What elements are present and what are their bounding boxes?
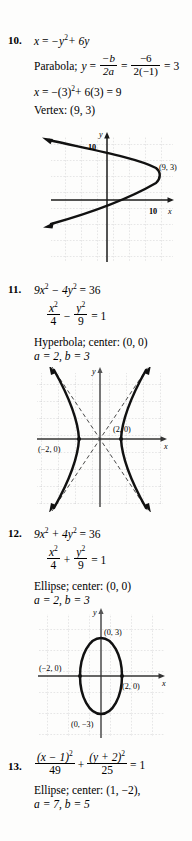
- fraction-x2-over-4: x2 4: [47, 546, 60, 572]
- equals-one: = 1: [130, 759, 145, 771]
- y-axis-label: y: [92, 608, 97, 617]
- eq-term1: 9x: [34, 284, 45, 296]
- x-axis-label: x: [163, 442, 168, 451]
- y-axis-label: y: [91, 367, 96, 376]
- fraction-denominator: 4: [47, 558, 60, 571]
- x-axis-arrow: [161, 436, 168, 442]
- problem-12-description: Ellipse; center: (0, 0): [34, 579, 192, 593]
- left-vertex-label: (−2, 0): [39, 664, 62, 673]
- equals-one: = 1: [91, 310, 106, 322]
- eq-rhs: = 36: [80, 528, 101, 540]
- parabola-graph: y 10 10 x (9, 3): [33, 128, 183, 268]
- fraction-numerator: x2: [47, 546, 60, 558]
- fraction-y-plus-2-squared-over-25: (y + 2)2 25: [87, 751, 127, 777]
- fraction-numerator: −b: [100, 53, 117, 65]
- right-vertex-label: (2, 0): [122, 682, 140, 691]
- problem-10-vertex: Vertex: (9, 3): [34, 103, 192, 117]
- formula-result: 3: [174, 60, 180, 72]
- fraction-denominator: 9: [74, 314, 87, 327]
- hyperbola-svg: y x (−2, 0) (2, 0): [24, 367, 180, 512]
- eq-term1: −y: [51, 35, 64, 47]
- fraction-y2-over-9: y2 9: [74, 546, 87, 572]
- problem-12-standard-form: x2 4 + y2 9 = 1: [46, 547, 192, 573]
- problem-10-formula: Parabola; y = −b 2a = −6 2(−1) = 3: [34, 54, 192, 79]
- vertex-label-left: (−2, 0): [38, 445, 61, 454]
- operator: +: [78, 759, 85, 771]
- equals-one: = 1: [91, 554, 106, 566]
- problem-11-equation: 9x2 − 4y2 = 36: [34, 283, 192, 297]
- problem-13-standard-form: (x − 1)2 49 + (y + 2)2 25 = 1: [34, 752, 192, 778]
- parabola-svg: y 10 10 x (9, 3): [33, 128, 183, 268]
- top-vertex-label: (0, 3): [104, 628, 122, 637]
- formula-var: y: [81, 60, 86, 72]
- vertex-dot-right: [120, 674, 124, 678]
- eq-term1: 9x: [34, 528, 45, 540]
- problem-13-description: Ellipse; center: (1, −2),: [34, 783, 192, 797]
- operator: −: [64, 310, 71, 322]
- operator: +: [64, 554, 71, 566]
- fraction-x-minus-1-squared-over-49: (x − 1)2 49: [35, 751, 75, 777]
- problem-11-number: 11.: [8, 283, 21, 295]
- fraction-denominator: 49: [35, 763, 75, 776]
- y-tick-10: 10: [88, 143, 96, 152]
- eq-term2: − 4y: [51, 284, 73, 296]
- fraction-numerator: (y + 2)2: [87, 751, 127, 763]
- problem-11-description: Hyperbola; center: (0, 0): [34, 335, 192, 349]
- x-tick-10: 10: [149, 207, 157, 216]
- problem-10-number: 10.: [8, 34, 22, 46]
- fraction-numerator: −6: [131, 53, 160, 65]
- problem-12-params: a = 2, b = 3: [34, 593, 192, 607]
- problem-10-evaluation: x = −(3)2+ 6(3) = 9: [34, 85, 192, 99]
- vertex-dot-left: [78, 674, 82, 678]
- problem-12-equation: 9x2 + 4y2 = 36: [34, 527, 192, 541]
- eq-rhs: = 36: [80, 284, 101, 296]
- fraction-denominator: 25: [87, 763, 127, 776]
- vertex-point-label: (9, 3): [159, 163, 177, 172]
- fraction-x2-over-4: x2 4: [47, 302, 60, 328]
- fraction-denominator: 2(−1): [131, 65, 160, 78]
- vertex-dot-right: [119, 437, 123, 441]
- hyperbola-graph: y x (−2, 0) (2, 0): [24, 367, 180, 512]
- problem-10-equation: x = −y2+ 6y: [34, 34, 192, 48]
- problem-12-number: 12.: [8, 527, 22, 539]
- x-axis-label: x: [167, 207, 172, 216]
- answer-key-page: 10. x = −y2+ 6y Parabola; y = −b 2a = −6…: [0, 0, 192, 841]
- eval-term1: −(3): [51, 86, 71, 98]
- fraction-denominator: 9: [74, 558, 87, 571]
- eq-term2: + 4y: [51, 528, 73, 540]
- fraction-numerator: (x − 1)2: [35, 751, 75, 763]
- y-axis-arrow: [104, 132, 110, 139]
- fraction-neg6-over-2neg1: −6 2(−1): [131, 53, 160, 78]
- conic-type-label: Parabola;: [34, 60, 77, 72]
- ellipse-svg: y x (0, 3) (0, −3) (−2, 0) (2, 0): [26, 608, 180, 740]
- fraction-y2-over-9: y2 9: [74, 302, 87, 328]
- fraction-denominator: 4: [47, 314, 60, 327]
- problem-11-standard-form: x2 4 − y2 9 = 1: [46, 303, 192, 329]
- vertex-label-right: (2, 0): [113, 425, 131, 434]
- eval-term2: + 6(3) = 9: [75, 86, 122, 98]
- fraction-denominator: 2a: [100, 65, 117, 78]
- vertex-dot-left: [77, 437, 81, 441]
- fraction-numerator: y2: [74, 302, 87, 314]
- problem-13-params: a = 7, b = 5: [34, 797, 192, 811]
- fraction-neg-b-over-2a: −b 2a: [100, 53, 117, 78]
- parabola-lower-arrow: [43, 222, 54, 228]
- bottom-vertex-label: (0, −3): [71, 720, 94, 729]
- y-axis-arrow: [97, 367, 102, 373]
- y-axis-arrow: [98, 608, 103, 614]
- fraction-numerator: y2: [74, 546, 87, 558]
- eq-term2: + 6y: [68, 35, 90, 47]
- y-axis-label: y: [98, 130, 103, 139]
- x-axis-label: x: [161, 679, 166, 688]
- problem-13-number: 13.: [8, 760, 22, 772]
- problem-11-params: a = 2, b = 3: [34, 349, 192, 363]
- fraction-numerator: x2: [47, 302, 60, 314]
- ellipse-graph: y x (0, 3) (0, −3) (−2, 0) (2, 0): [26, 608, 180, 740]
